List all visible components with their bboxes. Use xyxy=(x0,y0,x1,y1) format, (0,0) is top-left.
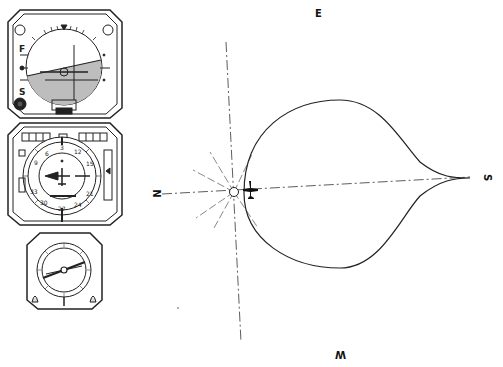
compass-label-south: S xyxy=(482,174,493,181)
attitude-label-f: F xyxy=(19,44,25,54)
svg-text:9: 9 xyxy=(34,159,38,166)
svg-text:21: 21 xyxy=(86,190,94,197)
svg-text:6: 6 xyxy=(45,150,49,157)
stray-dot xyxy=(177,307,179,309)
svg-text:27: 27 xyxy=(58,205,66,212)
svg-text:30: 30 xyxy=(40,199,48,206)
svg-text:33: 33 xyxy=(30,188,38,195)
attitude-label-s: S xyxy=(19,87,25,97)
attitude-indicator xyxy=(8,10,122,118)
teardrop-pattern xyxy=(162,42,470,342)
compass-label-east: E xyxy=(315,8,322,19)
svg-text:15: 15 xyxy=(86,160,94,167)
svg-text:12: 12 xyxy=(74,148,82,155)
svg-text:3: 3 xyxy=(60,144,64,151)
diagram-canvas: F S xyxy=(0,0,503,367)
svg-text:24: 24 xyxy=(74,201,82,208)
airplane-icon xyxy=(243,181,258,199)
compass-label-north: N xyxy=(152,189,163,197)
radio-magnetic-indicator xyxy=(27,233,102,309)
compass-label-west: W xyxy=(335,349,346,360)
